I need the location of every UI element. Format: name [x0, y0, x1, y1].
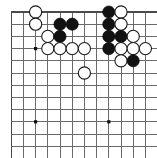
white-stone[interactable] — [29, 18, 41, 30]
black-stone[interactable] — [103, 6, 115, 18]
white-stone[interactable] — [78, 43, 90, 55]
star-point — [107, 120, 110, 123]
white-stone[interactable] — [115, 55, 127, 67]
black-stone[interactable] — [127, 55, 139, 67]
star-point — [34, 47, 37, 50]
black-stone[interactable] — [103, 18, 115, 30]
white-stone[interactable] — [29, 6, 41, 18]
white-stone[interactable] — [78, 67, 90, 79]
white-stone[interactable] — [54, 43, 66, 55]
black-stone[interactable] — [54, 18, 66, 30]
white-stone[interactable] — [115, 43, 127, 55]
black-stone[interactable] — [54, 30, 66, 42]
white-stone[interactable] — [42, 43, 54, 55]
white-stone[interactable] — [127, 30, 139, 42]
white-stone[interactable] — [115, 6, 127, 18]
star-point — [34, 120, 37, 123]
go-board-figure — [0, 0, 157, 158]
black-stone[interactable] — [115, 30, 127, 42]
black-stone[interactable] — [103, 43, 115, 55]
black-stone[interactable] — [66, 18, 78, 30]
black-stone[interactable] — [103, 30, 115, 42]
white-stone[interactable] — [66, 43, 78, 55]
white-stone[interactable] — [42, 30, 54, 42]
white-stone[interactable] — [115, 18, 127, 30]
go-board[interactable] — [0, 0, 157, 158]
white-stone[interactable] — [127, 43, 139, 55]
white-stone[interactable] — [139, 43, 151, 55]
